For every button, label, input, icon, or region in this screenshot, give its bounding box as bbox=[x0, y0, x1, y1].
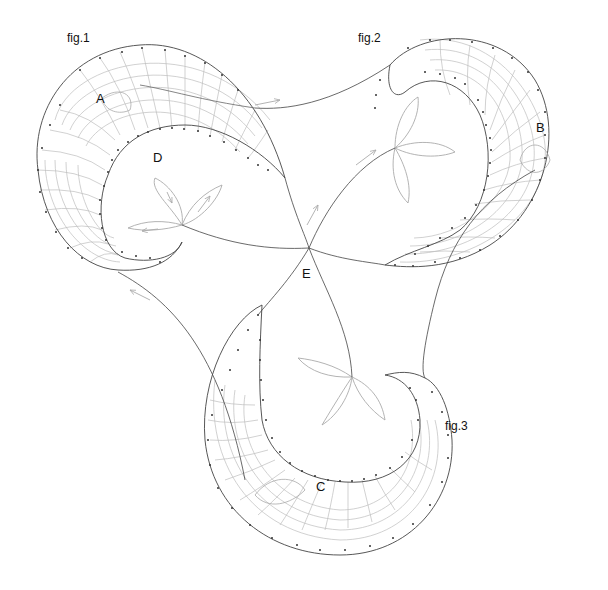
figure-1-leaves bbox=[128, 178, 222, 231]
figure-3-crescent bbox=[204, 305, 452, 555]
diagram-canvas bbox=[0, 0, 608, 590]
figure-2-leaves bbox=[356, 97, 455, 203]
point-label-e: E bbox=[302, 267, 311, 280]
figure-2-label: fig.2 bbox=[358, 32, 381, 44]
figure-2-crescent bbox=[374, 39, 550, 267]
point-label-a: A bbox=[96, 92, 105, 105]
figure-1-label: fig.1 bbox=[67, 32, 90, 44]
figure-3-leaves bbox=[298, 358, 385, 425]
point-label-b: B bbox=[536, 121, 545, 134]
point-label-d: D bbox=[153, 151, 162, 164]
figure-3-label: fig.3 bbox=[445, 420, 468, 432]
direction-arrows bbox=[130, 100, 318, 300]
point-label-c: C bbox=[316, 480, 325, 493]
